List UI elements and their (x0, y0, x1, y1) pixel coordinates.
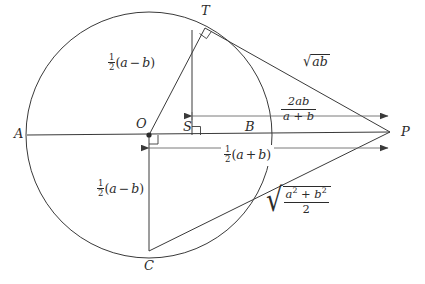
fraction-one-half-lower: 1 2 (97, 179, 104, 200)
fraction-quadratic-mean: a2 + b2 2 (284, 188, 329, 215)
quadratic-mean-numerator: a2 + b2 (284, 188, 329, 202)
segment-diameter-AP (27, 132, 390, 135)
sqrt-icon: √ (303, 53, 311, 70)
fraction-one-half-upper: 1 2 (108, 53, 115, 74)
label-half-a-minus-b-upper: 1 2 (a−b) (108, 53, 155, 74)
segment-radius-OT (149, 28, 205, 135)
sqrt-icon-tall: √ (266, 183, 283, 221)
center-dot-O (146, 132, 151, 137)
point-label-P: P (401, 125, 410, 138)
fraction-one-half-am: 1 2 (224, 145, 231, 166)
radical-sign-ab: √ ab (303, 54, 330, 69)
point-label-A: A (14, 127, 23, 140)
fraction-harmonic-mean: 2ab a + b (281, 95, 316, 122)
label-harmonic-mean: 2ab a + b (281, 96, 316, 123)
point-label-C: C (144, 259, 154, 272)
point-label-O: O (136, 117, 147, 130)
right-angle-at-T-icon (200, 32, 212, 39)
means-inequality-figure: A O S B P T C 1 2 (a−b) 1 2 (a−b) √ ab 2… (0, 0, 425, 284)
label-geometric-mean: √ ab (303, 54, 330, 69)
radical-sign-quadratic-mean: √ a2 + b2 2 (266, 186, 331, 216)
point-label-S: S (183, 120, 192, 133)
label-arithmetic-mean: 1 2 (a+b) (221, 145, 274, 166)
point-label-T: T (201, 4, 210, 17)
label-quadratic-mean: √ a2 + b2 2 (266, 186, 331, 216)
point-label-B: B (245, 120, 255, 133)
figure-canvas (0, 0, 425, 284)
label-half-a-minus-b-lower: 1 2 (a−b) (97, 179, 144, 200)
